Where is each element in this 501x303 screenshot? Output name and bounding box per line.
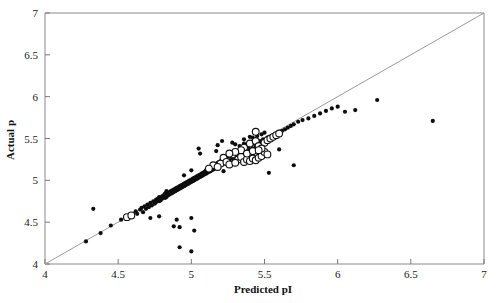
filled-circle-marker <box>157 214 161 218</box>
filled-circle-marker <box>262 131 266 135</box>
open-circle-marker <box>205 165 212 172</box>
x-tick-label: 6 <box>335 268 341 280</box>
open-circle-marker <box>128 212 135 219</box>
filled-circle-marker <box>306 116 310 120</box>
filled-circle-marker <box>109 223 113 227</box>
filled-circle-marker <box>431 119 435 123</box>
filled-circle-marker <box>230 141 234 145</box>
filled-circle-marker <box>330 106 334 110</box>
filled-circle-marker <box>292 122 296 126</box>
y-tick-label: 5.5 <box>24 133 38 145</box>
filled-circle-marker <box>242 137 246 141</box>
filled-circle-marker <box>119 218 123 222</box>
x-tick-label: 4 <box>42 268 48 280</box>
y-tick-label: 6.5 <box>24 49 38 61</box>
x-tick-label: 4.5 <box>111 268 125 280</box>
data-points <box>84 98 435 254</box>
filled-circle-marker <box>172 224 176 228</box>
x-tick-label: 5 <box>189 268 195 280</box>
x-tick-label: 5.5 <box>258 268 272 280</box>
filled-circle-marker <box>318 111 322 115</box>
filled-circle-marker <box>375 98 379 102</box>
open-circle-marker <box>232 159 239 166</box>
filled-circle-marker <box>192 228 196 232</box>
filled-circle-marker <box>135 212 139 216</box>
y-tick-label: 5 <box>33 174 39 186</box>
filled-circle-marker <box>221 169 225 173</box>
x-tick-label: 6.5 <box>404 268 418 280</box>
filled-circle-marker <box>267 171 271 175</box>
y-axis-title: Actual p <box>4 120 16 160</box>
filled-circle-marker <box>189 249 193 253</box>
filled-circle-marker <box>312 114 316 118</box>
filled-circle-marker <box>300 118 304 122</box>
filled-circle-marker <box>178 245 182 249</box>
open-circle-marker <box>276 130 283 137</box>
filled-circle-marker <box>353 108 357 112</box>
filled-circle-marker <box>343 110 347 114</box>
y-tick-label: 4.5 <box>24 216 38 228</box>
plot-canvas: 44.555.566.5744.555.566.57 Predicted pI … <box>0 0 501 303</box>
filled-circle-marker <box>84 239 88 243</box>
filled-circle-marker <box>296 120 300 124</box>
filled-circle-marker <box>178 225 182 229</box>
filled-circle-marker <box>175 218 179 222</box>
filled-circle-marker <box>164 189 168 193</box>
open-circle-marker <box>255 147 262 154</box>
filled-circle-marker <box>216 143 220 147</box>
filled-circle-marker <box>324 109 328 113</box>
x-axis-title: Predicted pI <box>234 283 292 295</box>
filled-circle-marker <box>148 216 152 220</box>
y-tick-label: 7 <box>33 7 39 19</box>
filled-circle-marker <box>91 207 95 211</box>
open-circle-marker <box>214 164 221 171</box>
y-tick-label: 4 <box>33 258 39 270</box>
filled-circle-marker <box>214 149 218 153</box>
filled-circle-marker <box>182 173 186 177</box>
filled-circle-marker <box>336 105 340 109</box>
filled-circle-marker <box>198 151 202 155</box>
open-circle-marker <box>264 151 271 158</box>
filled-circle-marker <box>189 168 193 172</box>
filled-circle-marker <box>99 231 103 235</box>
x-tick-label: 7 <box>481 268 487 280</box>
filled-circle-marker <box>189 216 193 220</box>
y-tick-label: 6 <box>33 91 39 103</box>
open-circle-marker <box>252 128 259 135</box>
filled-circle-marker <box>220 139 224 143</box>
scatter-plot-figure: 44.555.566.5744.555.566.57 Predicted pI … <box>0 0 501 303</box>
filled-circle-marker <box>292 163 296 167</box>
filled-circle-marker <box>277 147 281 151</box>
filled-circle-marker <box>197 146 201 150</box>
filled-circle-marker <box>141 210 145 214</box>
open-circle-marker <box>226 150 233 157</box>
